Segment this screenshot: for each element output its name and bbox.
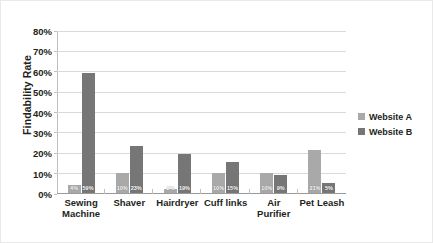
bar-website-b[interactable] [82,73,95,193]
bar-value-label: 59% [82,185,95,192]
bar-group: 10%23% [105,31,153,194]
bar-group: 21%5% [298,31,346,194]
legend-swatch-icon [358,128,365,135]
x-axis-category-label: Sewing Machine [57,198,105,219]
bar-value-label: 19% [178,185,191,192]
chart-container: Findability Rate 0%10%20%30%40%50%60%70%… [0,0,433,243]
legend-label: Website B [369,127,412,137]
x-axis-category-label: Pet Leash [298,198,346,209]
x-axis-category-label: Hairdryer [153,198,201,209]
y-axis-title: Findability Rate [21,25,33,165]
bar-value-label: 23% [130,185,143,192]
bar-value-label: 10% [116,185,129,192]
y-axis-tick-label: 30% [33,127,52,138]
y-axis-tick-label: 70% [33,46,52,57]
bar-group: 2%19% [153,31,201,194]
y-axis-tick-label: 60% [33,66,52,77]
legend-label: Website A [369,112,412,122]
bar-value-label: 10% [212,185,225,192]
legend-item[interactable]: Website B [358,126,428,137]
y-axis-tick-label: 10% [33,168,52,179]
x-axis-category-label: Air Purifier [250,198,298,219]
x-axis-categories: Sewing MachineShaverHairdryerCuff linksA… [57,198,346,228]
bar-series-layer: 4%59%10%23%2%19%10%15%10%9%21%5% [57,31,346,194]
bar-group: 10%9% [250,31,298,194]
bar-value-label: 21% [308,185,321,192]
y-axis-tick-label: 0% [38,189,52,200]
plot-area: 0%10%20%30%40%50%60%70%80% 4%59%10%23%2%… [57,31,346,194]
y-axis-tick-label: 80% [33,26,52,37]
bar-value-label: 15% [226,185,239,192]
bar-group: 10%15% [202,31,250,194]
bar-value-label: 10% [260,185,273,192]
y-axis-tick-label: 50% [33,87,52,98]
bar-value-label: 4% [68,185,81,192]
bar-group: 4%59% [57,31,105,194]
bar-value-label: 5% [322,185,335,192]
legend-item[interactable]: Website A [358,111,428,122]
y-axis-tick-label: 20% [33,148,52,159]
y-axis-tick-label: 40% [33,107,52,118]
bar-value-label: 2% [164,185,177,192]
x-axis-category-label: Shaver [105,198,153,209]
legend-swatch-icon [358,113,365,120]
bar-value-label: 9% [274,185,287,192]
chart-legend: Website AWebsite B [358,111,428,141]
x-axis-category-label: Cuff links [202,198,250,209]
